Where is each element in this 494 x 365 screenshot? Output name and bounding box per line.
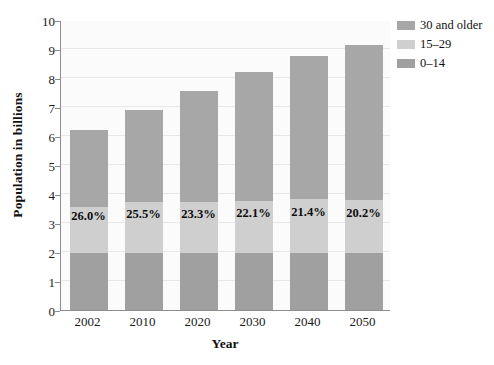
legend-item-label: 0–14: [420, 57, 445, 70]
bar-data-label: 21.4%: [291, 205, 325, 220]
bar-segment: [70, 253, 108, 310]
x-axis-tick-label: 2020: [168, 314, 228, 330]
legend-item-label: 30 and older: [420, 19, 482, 32]
gridline: [61, 135, 390, 136]
x-axis-tick-label: 2030: [223, 314, 283, 330]
bar-segment: [180, 253, 218, 310]
y-axis-title: Population in billions: [10, 45, 26, 265]
y-axis-tick-mark: [55, 224, 60, 225]
x-axis-tick-label: 2040: [278, 314, 338, 330]
x-axis-title: Year: [60, 336, 390, 352]
y-axis-tick-label: 3: [29, 218, 55, 231]
y-axis-tick-mark: [55, 253, 60, 254]
bar-2050: 20.2%: [345, 45, 383, 310]
population-stacked-bar-chart: 012345678910 Population in billions 26.0…: [0, 0, 494, 365]
gridline: [61, 193, 390, 194]
gridline: [61, 164, 390, 165]
bar-2040: 21.4%: [290, 56, 328, 310]
y-axis-tick-label: 10: [29, 15, 55, 28]
bar-segment: [290, 56, 328, 199]
bar-data-label: 22.1%: [236, 206, 270, 221]
bar-2030: 22.1%: [235, 72, 273, 310]
y-axis-tick-label: 1: [29, 276, 55, 289]
bar-data-label: 26.0%: [71, 209, 105, 224]
legend-swatch-icon: [397, 40, 415, 49]
bar-data-label: 20.2%: [346, 205, 380, 220]
bar-2020: 23.3%: [180, 91, 218, 310]
bar-segment: [125, 110, 163, 203]
gridline: [61, 251, 390, 252]
legend-swatch-icon: [397, 59, 415, 68]
legend-item: 30 and older: [397, 17, 482, 34]
bar-segment: [70, 130, 108, 207]
bar-segment: [345, 253, 383, 310]
bar-segment: [235, 253, 273, 310]
bar-segment: [345, 45, 383, 200]
y-axis-tick-mark: [55, 21, 60, 22]
gridline: [61, 77, 390, 78]
bar-segment: [125, 253, 163, 310]
legend-swatch-icon: [397, 21, 415, 30]
bar-segment: [180, 91, 218, 202]
y-axis-tick-mark: [55, 282, 60, 283]
plot-inner: 26.0%25.5%23.3%22.1%21.4%20.2%: [61, 21, 390, 310]
legend-item-label: 15–29: [420, 38, 451, 51]
y-axis-tick-mark: [55, 166, 60, 167]
y-axis-tick-mark: [55, 50, 60, 51]
gridline: [61, 222, 390, 223]
y-axis-tick-label: 7: [29, 102, 55, 115]
y-axis-tick-mark: [55, 311, 60, 312]
x-axis-tick-label: 2010: [113, 314, 173, 330]
y-axis-tick-mark: [55, 137, 60, 138]
y-axis-tick-mark: [55, 195, 60, 196]
y-axis-tick-mark: [55, 79, 60, 80]
y-axis: 012345678910: [25, 21, 55, 311]
y-axis-tick-label: 0: [29, 305, 55, 318]
x-axis-tick-label: 2050: [333, 314, 393, 330]
bar-2010: 25.5%: [125, 110, 163, 310]
y-axis-tick-label: 5: [29, 160, 55, 173]
gridline: [61, 106, 390, 107]
x-axis-tick-label: 2002: [58, 314, 118, 330]
y-axis-tick-label: 2: [29, 247, 55, 260]
legend-item: 0–14: [397, 55, 482, 72]
legend-item: 15–29: [397, 36, 482, 53]
legend: 30 and older15–290–14: [397, 17, 482, 74]
gridline: [61, 309, 390, 310]
bar-data-label: 23.3%: [181, 206, 215, 221]
gridline: [61, 48, 390, 49]
bar-segment: [290, 253, 328, 310]
plot-area: 26.0%25.5%23.3%22.1%21.4%20.2%: [60, 21, 390, 311]
y-axis-tick-label: 4: [29, 189, 55, 202]
bar-segment: [235, 72, 273, 201]
bar-data-label: 25.5%: [126, 206, 160, 221]
bar-2002: 26.0%: [70, 130, 108, 310]
y-axis-tick-label: 6: [29, 131, 55, 144]
y-axis-tick-label: 9: [29, 44, 55, 57]
y-axis-tick-label: 8: [29, 73, 55, 86]
gridline: [61, 280, 390, 281]
y-axis-tick-mark: [55, 108, 60, 109]
